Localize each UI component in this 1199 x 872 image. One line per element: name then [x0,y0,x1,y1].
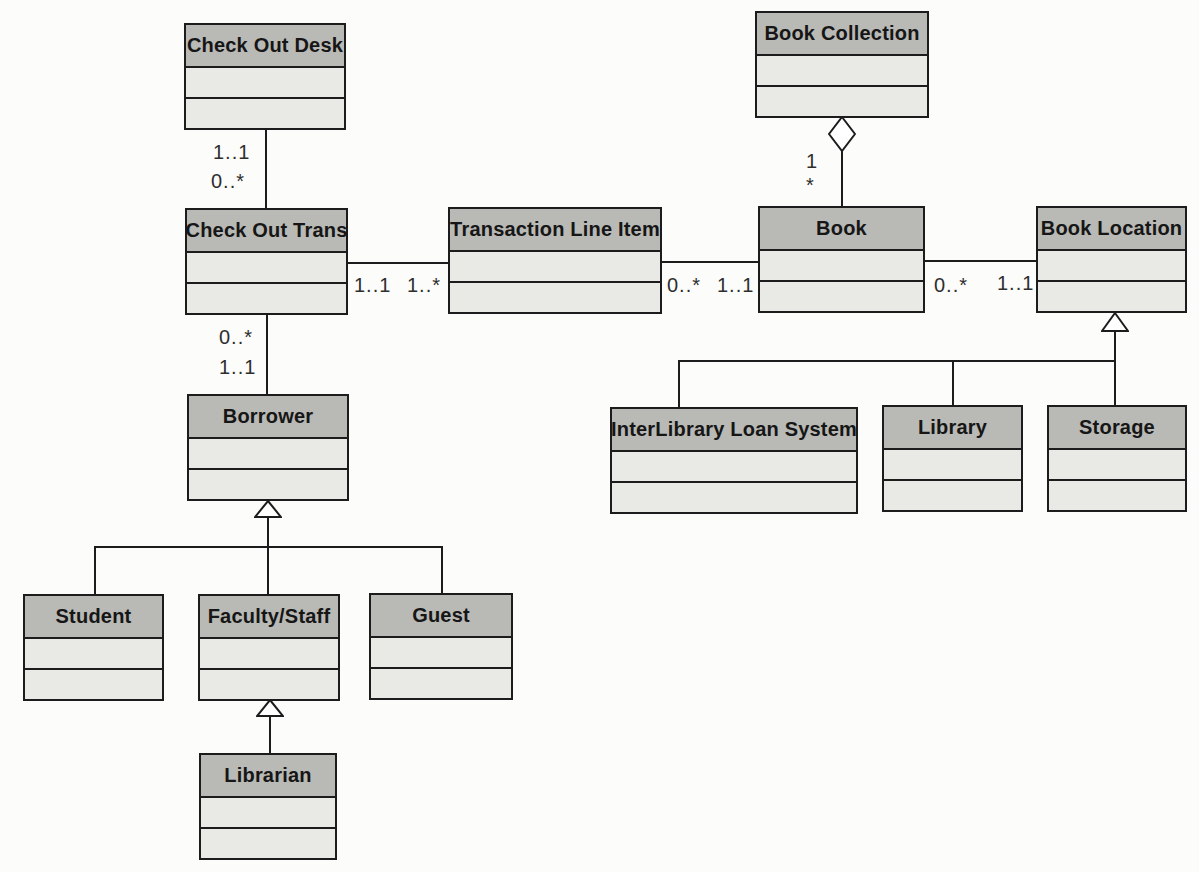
generalization-arrow-icon [254,500,282,518]
operations-compartment [25,670,162,699]
attributes-compartment [760,251,923,282]
operations-compartment [757,87,927,116]
class-box-guest: Guest [369,593,513,700]
operations-compartment [189,470,347,499]
class-box-borrower: Borrower [187,394,349,501]
multiplicity-label: 0..* [667,274,701,297]
operations-compartment [884,481,1021,510]
class-box-book-collection: Book Collection [755,11,929,118]
operations-compartment [200,670,338,699]
connector-librarian-stem [269,716,271,753]
class-box-faculty-staff: Faculty/Staff [198,594,340,701]
operations-compartment [187,284,346,313]
attributes-compartment [1049,450,1185,481]
connector-location-bus [678,360,1116,362]
aggregation-diamond-icon [828,116,856,152]
class-name: Storage [1049,407,1185,450]
connector-drop-ils [678,360,680,407]
attributes-compartment [187,253,346,284]
generalization-arrow-icon [256,699,284,717]
attributes-compartment [612,452,856,483]
class-name: Check Out Trans [187,210,346,253]
attributes-compartment [371,638,511,669]
attributes-compartment [201,798,335,829]
class-name: Book Location [1038,208,1185,251]
connector-book-location [925,260,1036,262]
operations-compartment [612,483,856,512]
multiplicity-label: 1..1 [213,141,250,164]
class-name: Book Collection [757,13,927,56]
operations-compartment [201,829,335,858]
class-box-storage: Storage [1047,405,1187,512]
attributes-compartment [884,450,1021,481]
attributes-compartment [189,439,347,470]
attributes-compartment [25,639,162,670]
class-name: InterLibrary Loan System [612,409,856,452]
connector-collection-book [841,150,843,206]
multiplicity-label: 0..* [211,170,245,193]
multiplicity-label: 0..* [219,326,253,349]
operations-compartment [1049,481,1185,510]
operations-compartment [371,669,511,698]
class-box-student: Student [23,594,164,701]
class-name: Librarian [201,755,335,798]
class-name: Borrower [189,396,347,439]
class-name: Guest [371,595,511,638]
connector-borrower-stem [267,517,269,547]
attributes-compartment [186,68,344,99]
connector-drop-facultystaff [267,546,269,594]
operations-compartment [186,99,344,128]
connector-drop-library [952,360,954,405]
connector-drop-student [94,546,96,594]
attributes-compartment [757,56,927,87]
multiplicity-label: 1..1 [717,274,754,297]
class-box-transaction-line-item: Transaction Line Item [448,207,662,314]
attributes-compartment [200,639,338,670]
connector-trans-lineitem [348,262,448,264]
attributes-compartment [1038,251,1185,282]
class-name: Student [25,596,162,639]
class-box-check-out-trans: Check Out Trans [185,208,348,315]
class-box-interlibrary-loan-system: InterLibrary Loan System [610,407,858,514]
class-name: Check Out Desk [186,25,344,68]
uml-class-diagram: 1..1 0..* 0..* 1..1 1..1 1..* 0..* 1..1 … [0,0,1199,872]
class-box-librarian: Librarian [199,753,337,860]
class-box-book-location: Book Location [1036,206,1187,313]
connector-location-stem [1114,330,1116,405]
multiplicity-label: 1..1 [997,272,1034,295]
connector-trans-borrower [266,315,268,394]
operations-compartment [450,283,660,312]
class-box-library: Library [882,405,1023,512]
class-name: Library [884,407,1021,450]
class-box-check-out-desk: Check Out Desk [184,23,346,130]
multiplicity-label: 1..* [407,274,441,297]
class-name: Transaction Line Item [450,209,660,252]
multiplicity-label: * [806,174,815,197]
multiplicity-label: 1 [806,150,818,173]
class-name: Book [760,208,923,251]
connector-lineitem-book [662,261,758,263]
connector-drop-guest [441,546,443,593]
class-name: Faculty/Staff [200,596,338,639]
connector-desk-trans [265,130,267,208]
generalization-arrow-icon [1101,312,1129,332]
multiplicity-label: 1..1 [354,274,391,297]
attributes-compartment [450,252,660,283]
class-box-book: Book [758,206,925,313]
multiplicity-label: 0..* [934,274,968,297]
multiplicity-label: 1..1 [219,356,256,379]
operations-compartment [760,282,923,311]
operations-compartment [1038,282,1185,311]
